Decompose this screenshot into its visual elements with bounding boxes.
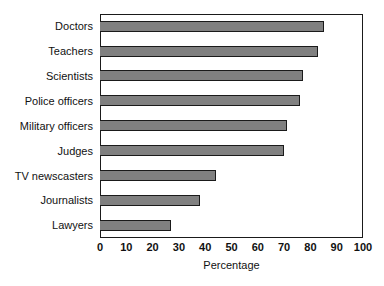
x-axis-tick-label: 70 [278, 240, 290, 254]
bar-row [100, 213, 363, 237]
x-axis-tick-label: 60 [252, 240, 264, 254]
x-axis-tick-label: 40 [199, 240, 211, 254]
bar [100, 120, 287, 131]
bar-row [100, 14, 363, 38]
category-label: Doctors [55, 20, 96, 32]
x-axis-tick-label: 0 [97, 240, 103, 254]
bar-row [100, 138, 363, 162]
category-label-row: Doctors [0, 14, 96, 38]
bar-row [100, 188, 363, 212]
bar [100, 46, 318, 57]
x-axis-tick-label: 100 [354, 240, 372, 254]
category-label: Teachers [48, 45, 96, 57]
bar-chart: DoctorsTeachersScientistsPolice officers… [0, 0, 384, 286]
x-axis-tick-labels: 0102030405060708090100 [100, 240, 363, 256]
category-label: TV newscasters [15, 170, 96, 182]
bars-container [100, 14, 363, 238]
category-label-row: Police officers [0, 89, 96, 113]
bar [100, 145, 284, 156]
category-label-row: Judges [0, 138, 96, 162]
bar [100, 21, 324, 32]
category-axis-labels: DoctorsTeachersScientistsPolice officers… [0, 14, 96, 238]
category-label: Scientists [46, 70, 96, 82]
bar-row [100, 163, 363, 187]
category-label-row: Military officers [0, 114, 96, 138]
category-label-row: Scientists [0, 64, 96, 88]
bar-row [100, 114, 363, 138]
category-label-row: Teachers [0, 39, 96, 63]
category-label: Judges [58, 145, 96, 157]
bar [100, 170, 216, 181]
x-axis-tick-label: 20 [146, 240, 158, 254]
bar-row [100, 64, 363, 88]
category-label: Police officers [25, 95, 96, 107]
bar-row [100, 39, 363, 63]
category-label-row: Lawyers [0, 213, 96, 237]
bar [100, 195, 200, 206]
bar-row [100, 89, 363, 113]
category-label: Lawyers [52, 219, 96, 231]
category-label: Journalists [40, 194, 96, 206]
x-axis-title: Percentage [100, 258, 363, 272]
category-label-row: Journalists [0, 188, 96, 212]
x-axis-tick-label: 10 [120, 240, 132, 254]
bar [100, 70, 303, 81]
bar [100, 220, 171, 231]
category-label-row: TV newscasters [0, 163, 96, 187]
x-axis-tick-label: 50 [225, 240, 237, 254]
bar [100, 95, 300, 106]
x-axis-tick-label: 80 [304, 240, 316, 254]
x-axis-tick-label: 30 [173, 240, 185, 254]
category-label: Military officers [20, 120, 96, 132]
x-axis-tick-label: 90 [331, 240, 343, 254]
